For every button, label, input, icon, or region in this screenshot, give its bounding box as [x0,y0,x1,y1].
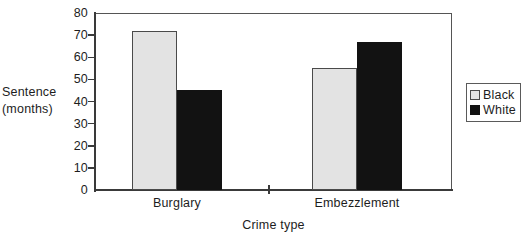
y-axis-title: Sentence (months) [2,84,86,118]
legend-swatch-icon [470,105,480,115]
y-tick-label-wrap: 20 [0,140,88,152]
bar-burglary-white [177,90,222,190]
y-tick-label: 30 [44,118,88,130]
legend-label: White [483,104,516,117]
y-tick-label: 70 [44,29,88,41]
legend-label: Black [483,89,515,102]
bar-embezzlement-black [312,68,357,190]
bar-embezzlement-white [357,42,402,190]
y-tick-label-wrap: 60 [0,51,88,63]
y-tick-label: 0 [44,184,88,196]
x-category-label: Burglary [97,196,257,210]
y-tick-label: 20 [44,140,88,152]
y-tick-label-wrap: 70 [0,29,88,41]
legend-item: White [470,103,516,117]
y-tick-label-wrap: 30 [0,118,88,130]
x-axis-title: Crime type [95,218,452,232]
x-tick-mark [268,185,270,194]
y-tick-label: 10 [44,162,88,174]
y-tick-label: 60 [44,51,88,63]
chart-legend: BlackWhite [466,83,521,122]
x-category-label: Embezzlement [277,196,437,210]
y-tick-label: 80 [44,7,88,19]
y-tick-label-wrap: 0 [0,184,88,196]
legend-item: Black [470,88,516,102]
bar-burglary-black [132,31,177,190]
y-tick-label-wrap: 10 [0,162,88,174]
y-axis-title-line1: Sentence [2,84,86,101]
y-axis-line [94,12,96,192]
y-tick-label-wrap: 80 [0,7,88,19]
legend-swatch-icon [470,90,480,100]
y-axis-title-line2: (months) [2,101,86,118]
